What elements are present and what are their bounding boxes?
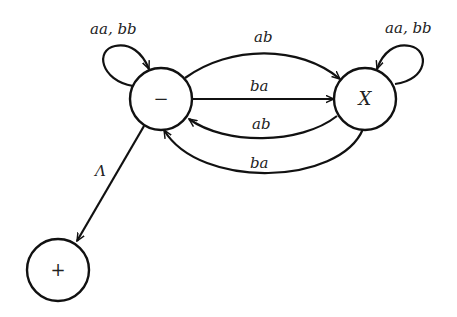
node-label: X xyxy=(357,88,373,109)
edge-start-to-final-lambda: Λ xyxy=(77,126,144,241)
edge-label: aa, bb xyxy=(385,19,432,37)
edge-label: ba xyxy=(250,77,269,95)
edge-label: ba xyxy=(250,154,269,172)
edge-label: ab xyxy=(252,115,271,133)
edge-start-to-x-ab: ab xyxy=(185,28,340,79)
edge-x-to-start-ab: ab xyxy=(189,115,337,138)
node-final: + xyxy=(27,239,89,301)
edge-label: ab xyxy=(254,28,273,46)
node-x: X xyxy=(334,68,396,130)
edge-label: aa, bb xyxy=(90,20,137,38)
node-label: − xyxy=(153,88,168,109)
edge-x-to-start-ba: ba xyxy=(164,129,363,173)
edge-label: Λ xyxy=(93,162,106,180)
automaton-diagram: aa, bb aa, bb ab ba ab ba Λ − X + xyxy=(0,0,457,317)
node-label: + xyxy=(50,259,65,280)
edge-start-to-x-ba: ba xyxy=(192,77,334,99)
node-start: − xyxy=(130,68,192,130)
